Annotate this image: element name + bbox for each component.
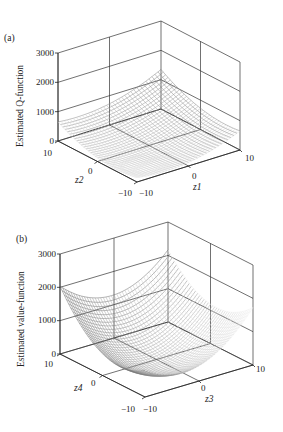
panel-b-xtick-m10: −10 (143, 404, 158, 414)
panel-b-surface (60, 250, 253, 376)
panel-a-ytick-0: 0 (88, 166, 93, 176)
panel-b-ztick-0: 0 (52, 349, 57, 359)
panel-a-xtick-10: 10 (245, 153, 255, 163)
panel-b-xtick-10: 10 (256, 364, 266, 374)
panel-b-xtick-0: 0 (201, 383, 206, 393)
panel-a-zlabel: Estimated Q-function (15, 65, 25, 147)
panel-b-label: (b) (16, 234, 27, 245)
panel-a-label: (a) (4, 33, 15, 44)
panel-b-ztick-1000: 1000 (38, 315, 57, 325)
panel-b-xlabel: z3 (204, 394, 214, 404)
panel-b-ztick-3000: 3000 (38, 249, 57, 259)
panel-b-ytick-m10: −10 (121, 404, 136, 414)
panel-a-surface (58, 69, 240, 177)
panel-b-ytick-10: 10 (44, 359, 54, 369)
panel-a-xtick-m10: −10 (139, 188, 154, 198)
panel-b-axes-box (57, 222, 255, 399)
panel-b-ylabel: z4 (73, 383, 83, 393)
panel-a: (a) 3000 2000 1000 0 10 0 −10 −10 0 10 z… (4, 21, 255, 198)
panel-b-zlabel: Estimated value-function (16, 271, 26, 367)
panel-a-xtick-0: 0 (192, 171, 197, 181)
panel-a-ytick-10: 10 (43, 148, 53, 158)
panel-a-ztick-0: 0 (50, 136, 55, 146)
panel-a-ylabel: z2 (74, 175, 84, 185)
figure: (a) 3000 2000 1000 0 10 0 −10 −10 0 10 z… (0, 0, 283, 432)
panel-a-ztick-2000: 2000 (36, 77, 55, 87)
panel-a-ztick-3000: 3000 (36, 48, 55, 58)
panel-a-ztick-1000: 1000 (36, 107, 55, 117)
panel-b: (b) 3000 2000 1000 0 10 0 −10 −10 0 10 z… (16, 222, 266, 414)
panel-a-ytick-m10: −10 (118, 188, 133, 198)
panel-a-xlabel: z1 (192, 182, 201, 192)
panel-b-ztick-2000: 2000 (38, 282, 57, 292)
panel-b-ytick-0: 0 (91, 378, 96, 388)
